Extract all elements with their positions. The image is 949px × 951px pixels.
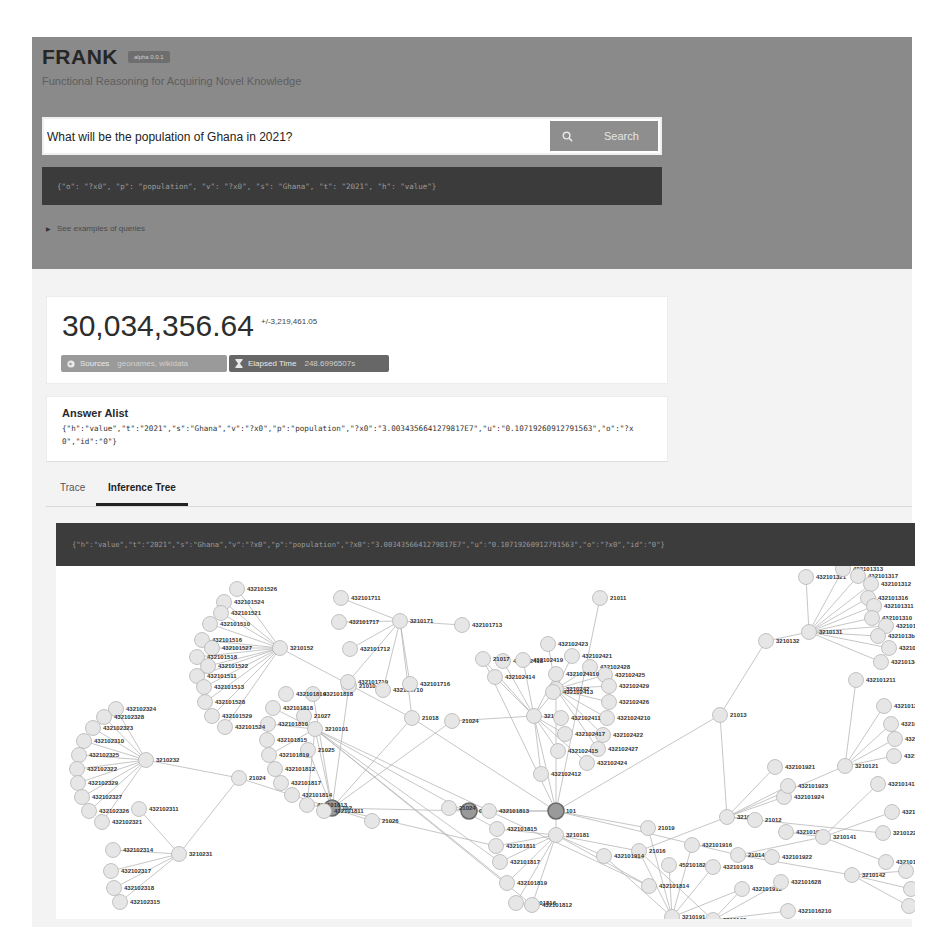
elapsed-label: Elapsed Time [248,359,296,368]
graph-node[interactable]: 3210142 [845,868,887,883]
svg-text:4321012b: 4321012b [901,721,915,727]
graph-node[interactable]: 432101916 [685,838,733,853]
graph-node[interactable]: 432101414 [885,805,916,820]
svg-text:3210152: 3210152 [290,645,314,651]
tab-inference-tree[interactable]: Inference Tree [108,482,176,493]
graph-node[interactable]: 3210162 [706,913,748,920]
graph-node[interactable]: 432102315 [113,895,161,910]
graph-node[interactable]: 432102414 [488,670,536,685]
graph-node[interactable]: 432101510 [203,617,251,632]
graph-node[interactable]: 432101813 [482,804,530,819]
graph-node[interactable]: 21026 [365,814,400,829]
graph-node[interactable]: 4321012c [888,732,916,747]
graph-node[interactable]: 432101711 [334,591,382,606]
graph-node[interactable]: 21011 [593,591,628,606]
inference-tree-graph[interactable]: 0102101210244321018133210101210182102421… [56,566,915,919]
graph-node[interactable]: 432101211 [849,673,897,688]
graph-node[interactable]: 432102412 [534,767,582,782]
svg-text:432101814: 432101814 [302,792,333,798]
graph-node[interactable]: 432102411 [554,711,602,726]
answer-error-margin: +/-3,219,461.05 [261,317,317,326]
svg-text:432102412: 432102412 [551,771,582,777]
graph-node[interactable]: 432102419 [516,653,564,668]
graph-node[interactable]: 432102423 [541,637,589,652]
examples-toggle[interactable]: ▶ See examples of queries [46,224,145,233]
graph-node[interactable]: 4321012a [877,699,916,714]
graph-node[interactable]: 4321014r1 [899,864,916,879]
result-tabs: Trace Inference Tree [46,472,912,507]
tab-trace[interactable]: Trace [60,482,85,493]
graph-node[interactable]: 432101812 [268,762,316,777]
graph-node[interactable]: 432101922 [765,850,813,865]
graph-node[interactable]: 3210231 [172,847,214,862]
graph-node[interactable]: 21014 [731,848,766,863]
graph-node[interactable]: 4321024210 [600,711,652,726]
graph-node[interactable]: 21024 [445,714,480,729]
graph-node[interactable]: 3210152 [273,641,315,656]
graph-node[interactable]: 432102314 [106,843,154,858]
graph-node[interactable]: 4321013c [882,641,916,656]
inference-tree-panel: {"h":"value","t":"2021","s":"Ghana","v":… [56,523,915,919]
svg-text:432101716: 432101716 [420,681,451,687]
graph-node[interactable]: 21013 [713,708,748,723]
graph-node[interactable]: 3210122 [876,826,916,841]
graph-node[interactable]: 432101918 [706,860,754,875]
graph-node[interactable]: 432101716 [403,677,451,692]
graph-node[interactable]: 432101513 [197,680,245,695]
svg-text:21016: 21016 [649,848,666,854]
elapsed-time-tag: Elapsed Time 248.6996507s [229,355,389,372]
graph-node[interactable]: 3210132 [759,634,801,649]
caret-right-icon: ▶ [46,225,51,232]
graph-node[interactable]: 432102426 [602,695,650,710]
graph-node[interactable]: 21012 [748,813,783,828]
graph-node[interactable]: 432102321 [95,815,143,830]
svg-text:432102419: 432102419 [533,657,564,663]
graph-node[interactable]: 3210101 [308,722,350,737]
graph-node[interactable]: 432101819 [279,687,327,702]
graph-node[interactable]: 432102311 [132,802,180,817]
graph-node[interactable]: 432102424 [580,756,628,771]
graph-node[interactable]: 4321012d [887,749,916,764]
svg-text:432102411: 432102411 [571,715,601,721]
graph-node[interactable]: 432101921 [768,760,816,775]
graph-node[interactable]: 432101712 [343,642,391,657]
search-bar: Search [42,117,662,155]
graph-node[interactable]: 432101815 [260,733,308,748]
graph-node[interactable]: 432101713 [455,618,503,633]
graph-node[interactable]: 432101526 [230,582,278,597]
graph-node[interactable]: 432101521 [214,606,262,621]
graph-node[interactable]: 21018 [405,711,440,726]
graph-node[interactable]: 432101811 [489,839,537,854]
graph-node[interactable]: 21024 [232,771,267,786]
graph-node[interactable]: 21019 [641,821,676,836]
graph-node[interactable]: 432102322 [70,762,118,777]
graph-node[interactable]: 432102429 [602,679,650,694]
graph-node[interactable]: 432101628 [774,875,822,890]
graph-node[interactable]: 432101717 [332,615,380,630]
graph-node[interactable]: 3210191 [665,910,707,920]
graph-node[interactable]: 432101412 [871,777,916,792]
svg-text:21018: 21018 [422,715,439,721]
svg-text:432101211: 432101211 [866,677,896,683]
graph-node[interactable]: 4321012b [884,717,916,732]
graph-node[interactable]: 4321014r2 [904,882,916,897]
graph-node[interactable]: 432101923 [781,779,829,794]
graph-node[interactable]: 452101824 [662,858,710,873]
graph-node[interactable]: 3210121 [838,759,880,774]
graph-node[interactable]: 4321013d [874,655,916,670]
graph-node[interactable]: 4321014r3 [902,899,916,914]
graph-node[interactable]: 3210171 [393,614,435,629]
graph-node[interactable]: 432101524 [218,720,266,735]
graph-node[interactable]: 432101819 [500,876,548,891]
graph-node[interactable]: 432101815 [490,822,538,837]
svg-text:432102325: 432102325 [89,752,120,758]
graph-node[interactable]: 4321016210 [781,904,833,919]
graph-node[interactable]: 432102317 [104,864,152,879]
graph-node[interactable]: 101 [548,803,577,819]
svg-text:432101521: 432101521 [231,610,262,616]
graph-node[interactable]: 432101817 [274,776,322,791]
svg-text:432101916: 432101916 [702,842,733,848]
svg-text:432101812: 432101812 [285,766,316,772]
search-button[interactable]: Search [550,121,658,151]
search-input[interactable] [44,119,554,155]
